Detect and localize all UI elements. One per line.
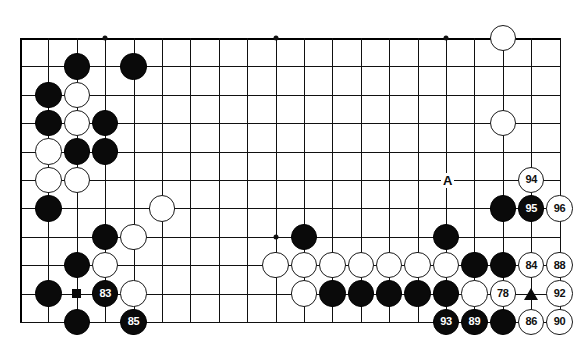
stone-white[interactable] — [291, 280, 317, 306]
stone-black-89[interactable]: 89 — [461, 309, 487, 335]
grid-line-vertical — [332, 38, 333, 322]
stone-black[interactable] — [35, 110, 61, 136]
stone-white-84[interactable]: 84 — [518, 252, 544, 278]
stone-move-number: 88 — [554, 260, 566, 271]
stone-black[interactable] — [64, 252, 90, 278]
stone-black[interactable] — [433, 280, 459, 306]
stone-white[interactable] — [35, 138, 61, 164]
stone-black-95[interactable]: 95 — [518, 195, 544, 221]
grid-line-horizontal — [20, 95, 560, 96]
stone-black-83[interactable]: 83 — [92, 280, 118, 306]
star-point — [103, 36, 108, 41]
letter-marker-A: A — [441, 173, 454, 188]
stone-black[interactable] — [490, 309, 516, 335]
stone-black[interactable] — [490, 252, 516, 278]
stone-white[interactable] — [149, 195, 175, 221]
stone-white[interactable] — [120, 280, 146, 306]
stone-black-85[interactable]: 85 — [120, 309, 146, 335]
stone-move-number: 86 — [525, 316, 537, 327]
go-diagram: 94959684888378928593898690A — [0, 0, 584, 342]
grid-line-vertical — [162, 38, 163, 322]
square-marker — [72, 289, 81, 298]
stone-move-number: 78 — [497, 288, 509, 299]
stone-black-93[interactable]: 93 — [433, 309, 459, 335]
grid-line-vertical — [219, 38, 220, 322]
stone-white[interactable] — [64, 167, 90, 193]
stone-white[interactable] — [262, 252, 288, 278]
stone-white-92[interactable]: 92 — [546, 280, 572, 306]
stone-white[interactable] — [433, 252, 459, 278]
stone-white[interactable] — [490, 25, 516, 51]
stone-black[interactable] — [64, 53, 90, 79]
stone-white-86[interactable]: 86 — [518, 309, 544, 335]
stone-white[interactable] — [64, 110, 90, 136]
star-point — [444, 36, 449, 41]
stone-black[interactable] — [404, 280, 430, 306]
grid-line-vertical — [105, 38, 106, 322]
stone-black[interactable] — [319, 280, 345, 306]
grid-line-vertical — [190, 38, 191, 322]
stone-move-number: 85 — [128, 316, 140, 327]
grid-line-horizontal — [20, 66, 560, 67]
stone-white[interactable] — [35, 167, 61, 193]
stone-move-number: 90 — [554, 316, 566, 327]
grid-line-vertical — [276, 38, 277, 322]
stone-black[interactable] — [348, 280, 374, 306]
stone-white[interactable] — [291, 252, 317, 278]
stone-white-96[interactable]: 96 — [546, 195, 572, 221]
stone-move-number: 92 — [554, 288, 566, 299]
grid-line-vertical — [560, 38, 561, 322]
grid-line-vertical — [418, 38, 419, 322]
grid-line-vertical — [361, 38, 362, 322]
grid-line-horizontal — [20, 208, 560, 209]
stone-white-78[interactable]: 78 — [490, 280, 516, 306]
grid-line-horizontal — [20, 180, 560, 181]
stone-white[interactable] — [92, 252, 118, 278]
stone-move-number: 89 — [469, 316, 481, 327]
stone-black[interactable] — [35, 195, 61, 221]
stone-black[interactable] — [120, 53, 146, 79]
stone-white[interactable] — [376, 252, 402, 278]
stone-black[interactable] — [461, 252, 487, 278]
stone-white-94[interactable]: 94 — [518, 167, 544, 193]
grid-line-vertical — [474, 38, 475, 322]
stone-black[interactable] — [64, 138, 90, 164]
grid-line-vertical — [389, 38, 390, 322]
stone-black[interactable] — [92, 110, 118, 136]
star-point — [273, 234, 278, 239]
stone-move-number: 94 — [525, 174, 537, 185]
stone-black[interactable] — [92, 224, 118, 250]
grid-line-vertical — [134, 38, 135, 322]
stone-move-number: 96 — [554, 203, 566, 214]
grid-line-vertical — [503, 38, 504, 322]
stone-black[interactable] — [376, 280, 402, 306]
stone-white[interactable] — [490, 110, 516, 136]
grid-line-vertical — [304, 38, 305, 322]
stone-white-90[interactable]: 90 — [546, 309, 572, 335]
stone-white[interactable] — [348, 252, 374, 278]
grid-line-vertical — [247, 38, 248, 322]
stone-black[interactable] — [35, 82, 61, 108]
stone-move-number: 93 — [440, 316, 452, 327]
stone-black[interactable] — [490, 195, 516, 221]
stone-white[interactable] — [120, 224, 146, 250]
stone-black[interactable] — [433, 224, 459, 250]
stone-black[interactable] — [291, 224, 317, 250]
stone-move-number: 84 — [525, 260, 537, 271]
stone-black[interactable] — [92, 138, 118, 164]
star-point — [273, 36, 278, 41]
stone-move-number: 95 — [525, 203, 537, 214]
stone-white[interactable] — [64, 82, 90, 108]
triangle-marker — [524, 288, 538, 300]
stone-white[interactable] — [404, 252, 430, 278]
grid-line-horizontal — [20, 38, 560, 40]
grid-line-vertical — [20, 38, 22, 322]
stone-black[interactable] — [35, 280, 61, 306]
go-board: 94959684888378928593898690A — [0, 0, 584, 342]
stone-move-number: 83 — [99, 288, 111, 299]
stone-white[interactable] — [461, 280, 487, 306]
stone-white-88[interactable]: 88 — [546, 252, 572, 278]
stone-black[interactable] — [64, 309, 90, 335]
stone-white[interactable] — [319, 252, 345, 278]
